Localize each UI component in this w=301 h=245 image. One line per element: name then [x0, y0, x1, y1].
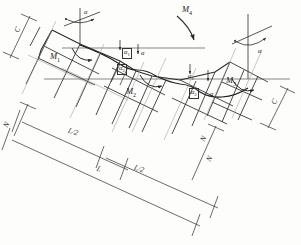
- dimension-line-n-mid: [192, 124, 224, 180]
- angle-arc-top-left: [64, 8, 100, 46]
- construction-grid-lines: [22, 21, 262, 140]
- dimension-line-c-right: [260, 86, 295, 130]
- moment-arrow-m3: [232, 79, 254, 91]
- profile-waveform: [80, 45, 248, 97]
- technical-diagram: M1 M2 M3 M4 α α1 α α2 α1 α2 α α C C N N: [0, 0, 301, 245]
- angle-leader-alpha1-left: [120, 40, 138, 54]
- upper-deck-outline: [38, 30, 230, 80]
- dimension-line-l-half-2: [96, 146, 218, 218]
- right-frame-members: [172, 62, 268, 134]
- dimension-line-n-left: [14, 102, 36, 136]
- angle-leader-alpha1-right: [190, 64, 208, 81]
- angle-arc-top-right: [232, 14, 272, 79]
- dimension-line-l-total: [2, 128, 200, 236]
- moment-arrow-m1: [72, 48, 92, 60]
- diagram-canvas: [0, 0, 301, 245]
- dimension-line-c-left: [3, 14, 37, 59]
- dimension-line-l-half-1: [12, 110, 128, 180]
- moment-arrow-m4: [177, 16, 194, 40]
